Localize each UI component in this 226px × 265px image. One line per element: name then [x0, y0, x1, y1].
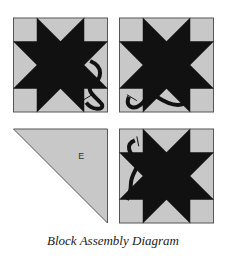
diagram-caption: Block Assembly Diagram — [0, 233, 226, 249]
star-block-top-left — [13, 17, 108, 113]
triangle-piece-e: E — [13, 128, 108, 224]
star-block-top-right — [119, 17, 214, 113]
star-block-bottom-right — [119, 128, 214, 224]
piece-label: E — [78, 151, 84, 161]
